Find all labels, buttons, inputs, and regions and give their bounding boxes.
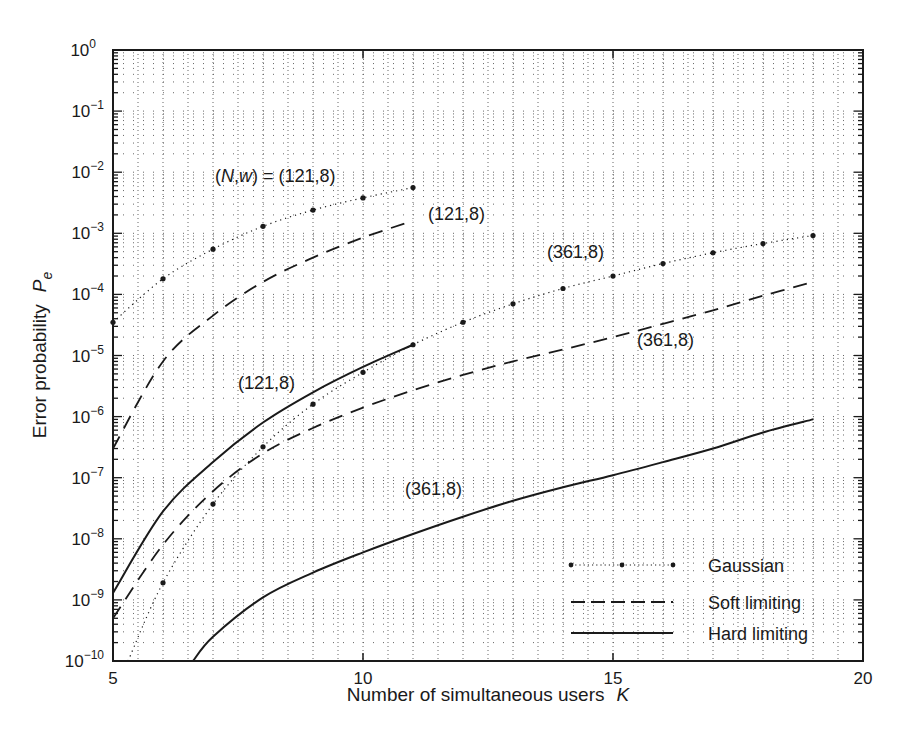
- data-marker: [760, 241, 765, 246]
- data-marker: [160, 580, 165, 585]
- data-marker: [310, 402, 315, 407]
- legend-label-soft: Soft limiting: [708, 593, 801, 613]
- y-tick-label: 10−10: [65, 648, 105, 671]
- data-marker: [410, 342, 415, 347]
- annotation-gauss-361: (361,8): [547, 242, 604, 262]
- data-marker: [810, 233, 815, 238]
- y-tick-label: 10−7: [71, 465, 104, 488]
- y-tick-label: 10−9: [71, 587, 104, 610]
- y-tick-label: 10−1: [71, 98, 104, 121]
- data-marker: [260, 224, 265, 229]
- data-marker: [210, 247, 215, 252]
- x-tick-label: 5: [108, 669, 117, 688]
- x-tick-label: 20: [854, 669, 873, 688]
- y-tick-label: 10−2: [71, 159, 104, 182]
- annotation-nw-121: (N,w) = (121,8): [215, 166, 336, 186]
- annotation-soft-361: (361,8): [637, 330, 694, 350]
- data-marker: [460, 320, 465, 325]
- data-marker: [560, 286, 565, 291]
- error-probability-chart: 5101520 10010−110−210−310−410−510−610−71…: [0, 0, 919, 737]
- legend-label-hard: Hard limiting: [708, 624, 808, 644]
- y-tick-labels: 10010−110−210−310−410−510−610−710−810−91…: [65, 37, 105, 671]
- legend-label-gaussian: Gaussian: [708, 556, 784, 576]
- annotation-hard-121: (121,8): [238, 373, 295, 393]
- data-marker: [510, 301, 515, 306]
- data-marker: [410, 185, 415, 190]
- data-marker: [360, 195, 365, 200]
- y-tick-label: 10−3: [71, 220, 104, 243]
- data-marker: [260, 444, 265, 449]
- y-tick-label: 10−6: [71, 404, 104, 427]
- data-marker: [160, 276, 165, 281]
- y-axis-title: Error probabilityPe: [29, 272, 55, 439]
- data-marker: [660, 261, 665, 266]
- y-tick-label: 10−5: [71, 343, 104, 366]
- y-tick-label: 100: [70, 37, 96, 60]
- data-marker: [710, 250, 715, 255]
- data-marker: [610, 273, 615, 278]
- x-axis-title: Number of simultaneous usersK: [347, 684, 631, 705]
- annotation-hard-361: (361,8): [405, 479, 462, 499]
- y-tick-label: 10−8: [71, 526, 104, 549]
- curve-annotations: (N,w) = (121,8) (121,8) (361,8) (361,8) …: [215, 166, 694, 499]
- legend: Gaussian Soft limiting Hard limiting: [560, 548, 808, 650]
- data-marker: [360, 370, 365, 375]
- data-marker: [210, 501, 215, 506]
- y-tick-label: 10−4: [71, 281, 104, 304]
- data-marker: [310, 207, 315, 212]
- annotation-soft-121: (121,8): [428, 204, 485, 224]
